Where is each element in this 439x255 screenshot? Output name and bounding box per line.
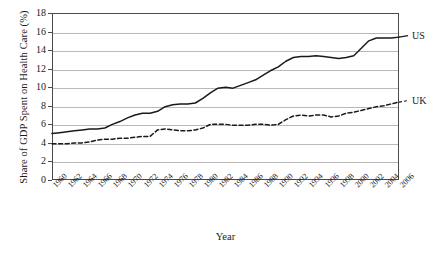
x-axis-title: Year [52,231,399,242]
y-tick-mark [48,87,52,88]
series-line-uk [52,102,399,144]
y-tick-mark [48,13,52,14]
series-leader-uk [399,101,408,103]
series-lines [52,13,399,180]
series-line-us [52,37,399,133]
y-tick-label: 4 [16,138,46,148]
y-tick-mark [48,124,52,125]
x-tick-label: 2006 [398,172,416,190]
y-tick-mark [48,161,52,162]
y-tick-mark [48,69,52,70]
series-label-uk: UK [412,95,426,106]
series-leader-us [399,36,408,38]
y-tick-label: 10 [16,82,46,92]
y-tick-mark [48,143,52,144]
y-tick-label: 2 [16,156,46,166]
y-tick-label: 12 [16,64,46,74]
y-tick-mark [48,106,52,107]
y-tick-label: 18 [16,8,46,18]
y-tick-label: 14 [16,45,46,55]
y-tick-mark [48,50,52,51]
y-tick-label: 0 [16,175,46,185]
y-tick-label: 16 [16,27,46,37]
y-tick-mark [48,32,52,33]
chart-container: Share of GDP Spent on Health Care (%) 02… [0,0,439,255]
series-label-us: US [412,30,425,41]
y-tick-label: 6 [16,119,46,129]
y-tick-label: 8 [16,101,46,111]
